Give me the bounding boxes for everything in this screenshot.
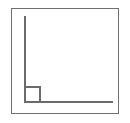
figure-root: [0, 0, 130, 123]
origin-square: [24, 86, 41, 103]
plot-area: [12, 9, 118, 113]
outer-frame: [11, 8, 119, 114]
